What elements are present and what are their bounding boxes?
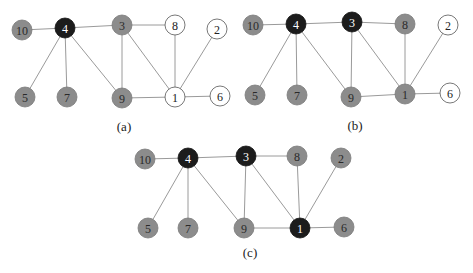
node-label: 2 bbox=[445, 19, 451, 33]
edge-3-1 bbox=[246, 156, 300, 228]
node-label: 2 bbox=[338, 152, 344, 166]
node-label: 8 bbox=[172, 19, 178, 33]
node-label: 4 bbox=[293, 18, 299, 32]
node-5: 5 bbox=[15, 87, 35, 107]
node-2: 2 bbox=[331, 148, 351, 168]
node-label: 1 bbox=[402, 88, 408, 102]
node-label: 7 bbox=[185, 222, 191, 236]
node-1: 1 bbox=[290, 218, 310, 238]
panel-b: 12345678910(b) bbox=[243, 12, 460, 133]
edge-2-1 bbox=[175, 29, 217, 97]
node-label: 10 bbox=[139, 153, 151, 167]
edge-2-1 bbox=[300, 158, 341, 228]
node-label: 10 bbox=[16, 24, 28, 38]
node-label: 8 bbox=[294, 150, 300, 164]
edge-4-9 bbox=[65, 28, 122, 98]
node-4: 4 bbox=[55, 18, 75, 38]
node-label: 5 bbox=[145, 222, 151, 236]
edge-4-7 bbox=[296, 24, 297, 95]
node-10: 10 bbox=[12, 20, 32, 40]
node-5: 5 bbox=[138, 218, 158, 238]
edge-3-9 bbox=[244, 156, 246, 228]
edge-4-5 bbox=[25, 28, 65, 97]
node-label: 10 bbox=[247, 19, 259, 33]
node-label: 3 bbox=[349, 16, 355, 30]
node-label: 1 bbox=[172, 91, 178, 105]
node-7: 7 bbox=[287, 85, 307, 105]
panel-c: 12345678910(c) bbox=[135, 146, 354, 260]
node-8: 8 bbox=[287, 146, 307, 166]
node-3: 3 bbox=[342, 12, 362, 32]
edge-3-9 bbox=[351, 22, 352, 97]
node-label: 5 bbox=[252, 89, 258, 103]
node-3: 3 bbox=[112, 15, 132, 35]
node-label: 9 bbox=[348, 91, 354, 105]
node-7: 7 bbox=[57, 87, 77, 107]
node-label: 4 bbox=[62, 22, 68, 36]
node-6: 6 bbox=[440, 83, 460, 103]
edge-4-5 bbox=[148, 158, 188, 228]
node-label: 4 bbox=[185, 152, 191, 166]
node-7: 7 bbox=[178, 218, 198, 238]
node-label: 6 bbox=[447, 87, 453, 101]
node-2: 2 bbox=[207, 19, 227, 39]
edge-4-9 bbox=[296, 24, 351, 97]
node-label: 3 bbox=[243, 150, 249, 164]
node-label: 6 bbox=[217, 90, 223, 104]
node-label: 1 bbox=[297, 222, 303, 236]
edge-3-1 bbox=[122, 25, 175, 97]
node-10: 10 bbox=[243, 15, 263, 35]
panel-a: 12345678910(a) bbox=[12, 15, 230, 134]
node-1: 1 bbox=[165, 87, 185, 107]
edge-3-1 bbox=[352, 22, 405, 94]
node-8: 8 bbox=[165, 15, 185, 35]
node-label: 5 bbox=[22, 91, 28, 105]
node-9: 9 bbox=[112, 88, 132, 108]
node-4: 4 bbox=[286, 14, 306, 34]
node-label: 9 bbox=[241, 222, 247, 236]
graph-figure: 12345678910(a)12345678910(b)12345678910(… bbox=[0, 0, 473, 273]
node-label: 8 bbox=[402, 18, 408, 32]
node-6: 6 bbox=[334, 217, 354, 237]
node-4: 4 bbox=[178, 148, 198, 168]
node-label: 9 bbox=[119, 92, 125, 106]
node-8: 8 bbox=[395, 14, 415, 34]
node-5: 5 bbox=[245, 85, 265, 105]
panel-caption: (b) bbox=[347, 118, 362, 133]
panel-caption: (c) bbox=[243, 245, 257, 260]
panel-caption: (a) bbox=[117, 119, 131, 134]
node-label: 7 bbox=[294, 89, 300, 103]
node-3: 3 bbox=[236, 146, 256, 166]
node-1: 1 bbox=[395, 84, 415, 104]
node-label: 2 bbox=[214, 23, 220, 37]
node-2: 2 bbox=[438, 15, 458, 35]
edge-2-1 bbox=[405, 25, 448, 94]
node-label: 3 bbox=[119, 19, 125, 33]
node-label: 6 bbox=[341, 221, 347, 235]
edge-8-1 bbox=[297, 156, 300, 228]
node-10: 10 bbox=[135, 149, 155, 169]
node-6: 6 bbox=[210, 86, 230, 106]
edge-4-5 bbox=[255, 24, 296, 95]
node-9: 9 bbox=[234, 218, 254, 238]
edge-4-9 bbox=[188, 158, 244, 228]
node-label: 7 bbox=[64, 91, 70, 105]
node-9: 9 bbox=[341, 87, 361, 107]
